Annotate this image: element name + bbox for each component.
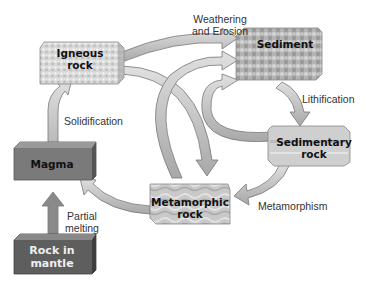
partial-text: Partial xyxy=(62,210,102,222)
sediment-label: Sediment xyxy=(257,38,313,50)
label-solidification: Solidification xyxy=(64,115,123,127)
igneous-label-1: Igneous xyxy=(57,47,104,59)
label-metamorphism: Metamorphism xyxy=(258,200,327,212)
solidification-text: Solidification xyxy=(64,115,123,127)
weathering-text: Weathering xyxy=(180,13,260,25)
label-lithification: Lithification xyxy=(302,93,355,105)
node-metamorphic-rock: Metamorphic rock xyxy=(150,184,230,224)
metamorphic-label-2: rock xyxy=(177,208,204,220)
node-sedimentary-rock: Sedimentary rock xyxy=(268,126,352,166)
arrow-sedimentary-to-sediment xyxy=(202,74,272,142)
erosion-text: and Erosion xyxy=(180,25,260,37)
mantle-label-1: Rock in xyxy=(29,244,74,257)
label-weathering-erosion: Weathering and Erosion xyxy=(180,13,260,37)
arrow-metamorphic-to-magma xyxy=(80,178,150,214)
sedimentary-label-2: rock xyxy=(301,148,328,160)
lithification-text: Lithification xyxy=(302,93,355,105)
melting-text: melting xyxy=(62,222,102,234)
magma-label: Magma xyxy=(30,158,73,170)
sedimentary-label-1: Sedimentary xyxy=(276,136,352,148)
node-igneous-rock: Igneous rock xyxy=(40,42,124,84)
arrow-partial-melting xyxy=(42,192,64,236)
node-magma: Magma xyxy=(14,142,96,180)
igneous-label-2: rock xyxy=(67,59,94,71)
arrow-metamorphism xyxy=(234,164,290,205)
metamorphic-label-1: Metamorphic xyxy=(151,196,229,208)
label-partial-melting: Partial melting xyxy=(62,210,102,234)
node-rock-in-mantle: Rock in mantle xyxy=(14,234,96,274)
metamorphism-text: Metamorphism xyxy=(258,200,327,212)
mantle-label-2: mantle xyxy=(30,257,73,270)
rock-cycle-diagram: Igneous rock Sediment Sedimentary rock M… xyxy=(0,0,368,286)
